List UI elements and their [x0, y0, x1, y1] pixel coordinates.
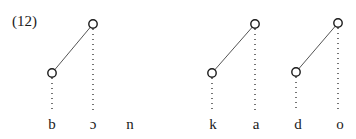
segment-label: o: [336, 117, 344, 132]
segment-label: a: [253, 117, 260, 132]
tone-node-circle: [292, 68, 300, 76]
tone-node-circle: [208, 69, 216, 77]
segment-label: ɔ: [90, 117, 97, 132]
tone-node-circle: [89, 20, 97, 28]
association-line: [212, 24, 255, 73]
segment-label: n: [126, 117, 134, 132]
segment-label: k: [209, 117, 217, 132]
tone-node-circle: [251, 20, 259, 28]
association-line: [52, 24, 93, 73]
segment-label: b: [48, 117, 56, 132]
tone-node-circle: [334, 19, 342, 27]
tone-node-circle: [48, 69, 56, 77]
association-line: [296, 23, 338, 72]
segment-label: d: [294, 117, 302, 132]
